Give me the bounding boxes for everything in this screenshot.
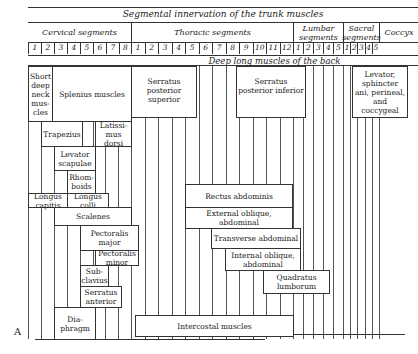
muscle-serratus-anterior: Serratus anterior xyxy=(80,286,122,308)
segment-c7: 7 xyxy=(106,42,119,54)
group-lumbar: Lumbar segments xyxy=(293,23,343,42)
segment-c5: 5 xyxy=(80,42,93,54)
top-rule xyxy=(28,7,418,8)
segment-c4: 4 xyxy=(67,42,80,54)
segment-l5: 5 xyxy=(333,42,343,54)
group-coccyx: Coccyx xyxy=(379,23,418,42)
segment-s1: 1 xyxy=(343,42,350,54)
segment-t5: 5 xyxy=(185,42,199,54)
segment-t2: 2 xyxy=(145,42,159,54)
segment-c1: 1 xyxy=(28,42,41,54)
muscle-intercostal: Intercostal muscles xyxy=(135,315,294,337)
muscle-levator-scapulae: Levator scapulae xyxy=(54,146,96,171)
group-thoracic: Thoracic segments xyxy=(131,23,293,42)
segment-l2: 2 xyxy=(303,42,313,54)
segment-t3: 3 xyxy=(158,42,172,54)
segment-t1: 1 xyxy=(131,42,145,54)
muscle-internal-oblique: Internal oblique, abdominal xyxy=(225,248,301,271)
segment-l4: 4 xyxy=(323,42,333,54)
muscle-quadratus-lumborum: Quadratus lumborum xyxy=(263,270,330,294)
segment-t6: 6 xyxy=(199,42,213,54)
muscle-transverse-abdominal: Transverse abdominal xyxy=(211,228,301,249)
segment-c3: 3 xyxy=(54,42,67,54)
segment-grid-line xyxy=(333,66,334,339)
segment-t4: 4 xyxy=(172,42,186,54)
group-cervical: Cervical segments xyxy=(28,23,131,42)
muscle-pectoralis-minor: Pectoralis minor xyxy=(95,250,139,266)
segment-t8: 8 xyxy=(226,42,240,54)
segment-c2: 2 xyxy=(41,42,54,54)
segment-l3: 3 xyxy=(313,42,323,54)
segment-number-row: 1 2 3 4 5 6 7 8 1 2 3 4 5 6 7 8 9 10 11 … xyxy=(28,42,418,55)
segment-c8: 8 xyxy=(119,42,131,54)
muscle-latissimus-dorsi: Latissi-mus dorsi xyxy=(95,121,132,147)
muscle-pectoralis-major: Pectoralis major xyxy=(80,225,139,251)
segment-s5: 5 xyxy=(372,42,379,54)
muscle-diaphragm: Dia-phragm xyxy=(54,307,96,340)
muscle-serratus-posterior-inferior: Serratus posterior inferior xyxy=(236,66,306,118)
segment-s2: 2 xyxy=(350,42,357,54)
muscle-levator-sphincter-ani: Levator, sphincter ani, perineal, and co… xyxy=(352,66,408,118)
segment-t9: 9 xyxy=(239,42,253,54)
segment-grid-line xyxy=(343,66,344,339)
segment-grid-line xyxy=(313,66,314,339)
muscle-scalenes: Scalenes xyxy=(54,207,132,226)
muscle-trapezius: Trapezius xyxy=(41,121,83,147)
segment-t10: 10 xyxy=(253,42,267,54)
segment-l1: 1 xyxy=(293,42,303,54)
muscle-external-oblique: External oblique, abdominal xyxy=(185,207,293,229)
segment-s3: 3 xyxy=(357,42,364,54)
figure-title: Segmental innervation of the trunk muscl… xyxy=(28,9,418,19)
group-sacral: Sacral segments xyxy=(343,23,379,42)
muscle-longus-capitis: Longus capitis xyxy=(28,193,68,208)
muscle-rhomboids: Rhom-boids xyxy=(67,170,96,194)
figure-label: A xyxy=(14,326,21,337)
segment-s4: 4 xyxy=(365,42,372,54)
segment-t11: 11 xyxy=(266,42,280,54)
segment-grid-line xyxy=(323,66,324,339)
muscle-longus-colli: Longus colli xyxy=(67,193,109,208)
muscle-splenius: Splenius muscles xyxy=(52,66,132,122)
muscle-rectus-abdominis: Rectus abdominis xyxy=(185,184,293,208)
segment-t12: 12 xyxy=(280,42,294,54)
muscle-short-deep-neck: Short deep neck mus-cles xyxy=(28,66,53,122)
segment-c6: 6 xyxy=(93,42,106,54)
segment-t7: 7 xyxy=(212,42,226,54)
muscle-serratus-posterior-superior: Serratus posterior superior xyxy=(131,66,197,118)
muscle-subclavius: Sub-clavius xyxy=(80,265,109,287)
